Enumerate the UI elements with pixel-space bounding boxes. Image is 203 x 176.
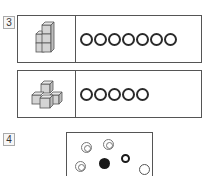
circle-pattern-box <box>66 132 153 176</box>
ring-icon <box>94 33 107 46</box>
solid-black-circle-icon <box>99 158 110 169</box>
ring-icon <box>122 33 135 46</box>
ring-counter <box>76 71 201 117</box>
ring-icon <box>136 88 149 101</box>
ring-icon <box>164 33 177 46</box>
answer-row-2 <box>17 70 202 118</box>
cube-tower-picture <box>18 16 76 62</box>
double-ring-icon <box>103 139 114 150</box>
answer-row-1 <box>17 15 202 63</box>
question-number-4: 4 <box>3 133 15 146</box>
ring-icon <box>150 33 163 46</box>
ring-icon <box>136 33 149 46</box>
question-number-3: 3 <box>3 16 15 29</box>
ring-icon <box>108 88 121 101</box>
ring-icon <box>108 33 121 46</box>
thick-ring-icon <box>121 154 130 163</box>
ring-counter <box>76 16 201 62</box>
double-ring-icon <box>75 161 86 172</box>
cube-tower-icon <box>18 16 75 64</box>
double-ring-icon <box>81 142 92 153</box>
ring-icon <box>122 88 135 101</box>
cube-cross-icon <box>18 71 75 119</box>
ring-icon <box>80 88 93 101</box>
cube-cross-picture <box>18 71 76 117</box>
plain-ring-icon <box>139 164 150 175</box>
ring-icon <box>94 88 107 101</box>
ring-icon <box>80 33 93 46</box>
